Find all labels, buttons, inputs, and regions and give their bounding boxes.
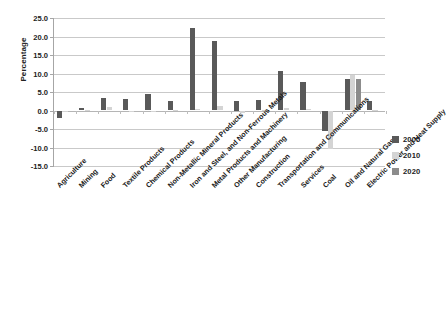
category-separator <box>320 111 321 114</box>
bar <box>173 110 178 111</box>
legend-label: 2020 <box>403 167 420 176</box>
legend-item[interactable]: 2010 <box>392 147 420 163</box>
bar <box>107 107 112 111</box>
bar <box>350 75 355 111</box>
gridline <box>54 92 385 93</box>
y-axis-tick <box>50 129 54 130</box>
bar <box>345 79 350 110</box>
chart-legend: 200520102020 <box>392 131 420 179</box>
y-axis-tick <box>50 166 54 167</box>
bar <box>328 111 333 150</box>
legend-item[interactable]: 2005 <box>392 131 420 147</box>
y-axis-tick <box>50 74 54 75</box>
y-axis-tick <box>50 148 54 149</box>
y-axis-title: Percentage <box>19 15 28 105</box>
legend-label: 2005 <box>403 135 420 144</box>
bar <box>372 110 377 111</box>
category-separator <box>364 111 365 114</box>
bar <box>234 101 239 110</box>
x-axis-label: Coal <box>320 172 337 189</box>
category-separator <box>209 111 210 114</box>
bar <box>367 101 372 111</box>
gridline <box>54 55 385 56</box>
category-separator <box>120 111 121 114</box>
bar <box>262 110 267 111</box>
gridline <box>54 74 385 75</box>
y-axis-tick-label: -5.0 <box>35 125 48 134</box>
bar <box>322 111 327 131</box>
plot-area: 25.020.015.010.05.00.0-5.0-10.0-15.0 <box>53 18 385 166</box>
bar <box>145 94 150 110</box>
legend-item[interactable]: 2020 <box>392 163 420 179</box>
bar <box>212 41 217 110</box>
bar <box>278 71 283 111</box>
y-axis-tick-label: -15.0 <box>31 162 48 171</box>
bar <box>57 111 62 118</box>
category-separator <box>297 111 298 114</box>
gridline <box>54 37 385 38</box>
bar <box>190 28 195 111</box>
gridline <box>54 18 385 19</box>
category-separator <box>165 111 166 114</box>
legend-swatch-icon <box>392 136 399 143</box>
bar <box>151 111 156 112</box>
bar <box>168 101 173 111</box>
category-separator <box>54 111 55 114</box>
category-separator <box>76 111 77 114</box>
category-separator <box>342 111 343 114</box>
bar <box>300 82 305 111</box>
category-separator <box>231 111 232 114</box>
bar <box>256 100 261 111</box>
bar <box>240 111 245 113</box>
bar <box>284 108 289 110</box>
y-axis-tick-label: 15.0 <box>33 51 48 60</box>
y-axis-tick <box>50 37 54 38</box>
x-axis-label: Mining <box>77 167 100 190</box>
bar <box>85 110 90 111</box>
category-separator <box>275 111 276 114</box>
y-axis-tick-label: 25.0 <box>33 14 48 23</box>
category-separator <box>143 111 144 114</box>
category-separator <box>386 111 387 114</box>
legend-swatch-icon <box>392 152 399 159</box>
y-axis-tick-label: 10.0 <box>33 69 48 78</box>
bar <box>195 109 200 110</box>
gridline <box>54 111 385 112</box>
category-separator <box>253 111 254 114</box>
bar <box>306 109 311 111</box>
category-separator <box>98 111 99 114</box>
y-axis-tick <box>50 18 54 19</box>
bar <box>123 99 128 110</box>
bar <box>356 79 361 110</box>
category-separator <box>187 111 188 114</box>
legend-swatch-icon <box>392 168 399 175</box>
bar <box>62 111 67 112</box>
gridline <box>54 129 385 130</box>
y-axis-tick <box>50 92 54 93</box>
y-axis-tick-label: 0.0 <box>37 106 48 115</box>
y-axis-tick-label: -10.0 <box>31 143 48 152</box>
y-axis-tick-label: 20.0 <box>33 32 48 41</box>
gridline <box>54 148 385 149</box>
x-axis-label: Food <box>99 171 118 190</box>
bar <box>129 111 134 112</box>
bar <box>79 108 84 110</box>
legend-label: 2010 <box>403 151 420 160</box>
bar-chart: Percentage 25.020.015.010.05.00.0-5.0-10… <box>0 0 446 310</box>
y-axis-tick-label: 5.0 <box>37 88 48 97</box>
bar <box>217 106 222 110</box>
gridline <box>54 166 385 167</box>
y-axis-tick <box>50 55 54 56</box>
bar <box>101 98 106 111</box>
